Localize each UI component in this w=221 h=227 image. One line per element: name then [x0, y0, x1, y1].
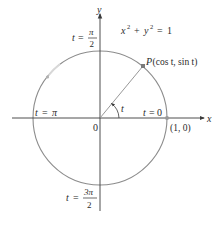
point-P	[141, 64, 145, 68]
svg-text:π: π	[52, 107, 58, 118]
svg-text:t: t	[143, 107, 146, 118]
svg-text:x: x	[120, 25, 126, 36]
svg-text:π: π	[89, 27, 94, 37]
label-t-equals-pi: t = π	[35, 107, 58, 118]
point-P-label: P (cos t, sin t)	[145, 56, 197, 68]
svg-text:2: 2	[87, 200, 92, 210]
svg-text:y: y	[143, 25, 149, 36]
arc-marker-dot	[46, 75, 49, 78]
angle-t-label: t	[121, 103, 124, 114]
svg-text:0: 0	[157, 107, 162, 118]
label-t-equals-3pi-over-2: t = 3π 2	[66, 187, 97, 210]
label-t-equals-0: t = 0	[143, 107, 162, 118]
point-1-0-label: (1, 0)	[170, 123, 191, 134]
svg-text:=: =	[78, 32, 84, 43]
svg-text:2: 2	[127, 23, 130, 30]
svg-text:(cos t, sin t): (cos t, sin t)	[153, 57, 198, 68]
svg-text:t: t	[35, 107, 38, 118]
origin-label: 0	[93, 122, 98, 133]
circle-equation: x 2 + y 2 = 1	[120, 23, 172, 36]
svg-text:1: 1	[167, 25, 172, 36]
svg-text:+: +	[134, 25, 140, 36]
svg-text:3π: 3π	[83, 187, 94, 197]
svg-text:=: =	[73, 192, 79, 203]
x-axis-label: x	[206, 113, 212, 124]
y-axis-label: y	[96, 4, 102, 15]
point-1-0	[165, 116, 169, 120]
svg-text:2: 2	[150, 23, 153, 30]
svg-text:=: =	[149, 107, 155, 118]
svg-text:P: P	[145, 56, 152, 67]
svg-text:2: 2	[90, 39, 95, 49]
svg-text:t: t	[72, 32, 75, 43]
svg-text:t: t	[66, 192, 69, 203]
angle-arc	[112, 104, 120, 119]
svg-text:=: =	[42, 107, 48, 118]
motion-arc-highlight	[49, 64, 61, 76]
svg-text:=: =	[157, 25, 163, 36]
label-t-equals-pi-over-2: t = π 2	[72, 27, 97, 49]
unit-circle-diagram: x y 0 x 2 + y 2 = 1 P (cos t, sin t) (1,…	[0, 0, 221, 227]
